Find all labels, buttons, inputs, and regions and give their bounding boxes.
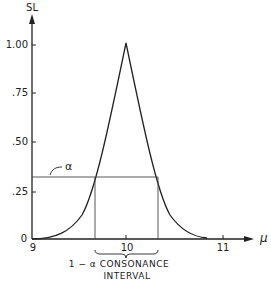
x-axis-label: μ xyxy=(259,231,268,245)
y-tick-label: 1.00 xyxy=(6,39,28,50)
alpha-label: α xyxy=(65,160,72,173)
chart: 1.00 .75 .50 .25 0 SL 9 10 11 μ α 1 − α … xyxy=(0,0,271,291)
x-tick-label: 9 xyxy=(30,242,36,253)
y-axis-label: SL xyxy=(26,2,38,13)
interval-label-line2: INTERVAL xyxy=(103,271,150,281)
y-tick-label: .50 xyxy=(12,136,28,147)
y-axis-arrow-icon xyxy=(29,14,35,24)
x-axis-arrow-icon xyxy=(244,236,254,242)
y-tick-label: .75 xyxy=(12,87,28,98)
x-tick-label: 11 xyxy=(217,242,230,253)
alpha-leader xyxy=(50,167,62,175)
x-tick-label: 10 xyxy=(121,242,134,253)
y-tick-label: .25 xyxy=(12,186,28,197)
interval-label-line1: 1 − α CONSONANCE xyxy=(69,259,169,269)
sl-curve xyxy=(32,43,207,239)
y-tick-label: 0 xyxy=(21,233,27,244)
